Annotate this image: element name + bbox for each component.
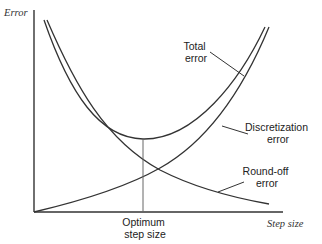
optimum-step-size-label: Optimum step size (122, 216, 168, 240)
y-axis-label: Error (3, 7, 28, 18)
error-vs-step-size-diagram: Error Step size Total error Discretizati… (0, 0, 322, 244)
roundoff-error-leader (218, 182, 244, 192)
discretization-error-curve (34, 27, 269, 212)
discretization-error-label: Discretization error (245, 121, 311, 145)
roundoff-error-label: Round-off error (243, 165, 292, 189)
total-error-label: Total error (183, 40, 208, 64)
total-error-leader (210, 52, 244, 76)
x-axis-label: Step size (267, 218, 304, 229)
roundoff-error-curve (47, 20, 269, 204)
total-error-curve (44, 20, 265, 139)
